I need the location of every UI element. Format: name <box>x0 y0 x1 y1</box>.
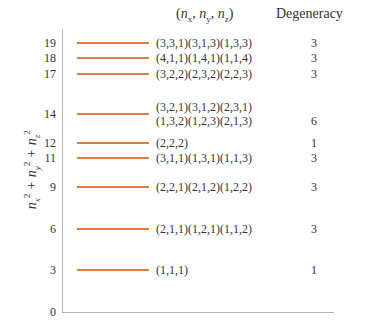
degeneracy-header: Degeneracy <box>276 6 343 22</box>
degeneracy-value: 3 <box>308 67 320 81</box>
level-line <box>77 42 149 44</box>
tick-19: 19 <box>28 36 56 50</box>
tick-3: 3 <box>28 263 56 277</box>
degeneracy-value: 3 <box>308 51 320 65</box>
degeneracy-value: 3 <box>308 151 320 165</box>
degeneracy-value: 3 <box>308 222 320 236</box>
tick-9: 9 <box>28 180 56 194</box>
level-line <box>77 228 149 230</box>
level-configs: (2,2,2) <box>156 136 188 150</box>
x-axis <box>62 312 334 313</box>
level-line <box>77 113 149 115</box>
level-configs: (4,1,1)(1,4,1)(1,1,4) <box>156 51 252 65</box>
tick-6: 6 <box>28 222 56 236</box>
level-line <box>77 73 149 75</box>
level-line <box>77 157 149 159</box>
level-configs: (3,2,1)(3,1,2)(2,3,1) <box>156 100 252 114</box>
tick-17: 17 <box>28 67 56 81</box>
level-line <box>77 57 149 59</box>
level-configs: (3,3,1)(3,1,3)(1,3,3) <box>156 36 252 50</box>
y-axis <box>62 30 63 313</box>
level-line <box>77 142 149 144</box>
degeneracy-value: 3 <box>308 180 320 194</box>
level-line <box>77 186 149 188</box>
tick-18: 18 <box>28 51 56 65</box>
tick-11: 11 <box>28 151 56 165</box>
degeneracy-value: 3 <box>308 36 320 50</box>
level-configs: (3,2,2)(2,3,2)(2,2,3) <box>156 67 252 81</box>
degeneracy-value: 6 <box>308 114 320 128</box>
tick-14: 14 <box>28 107 56 121</box>
level-configs: (2,2,1)(2,1,2)(1,2,2) <box>156 180 252 194</box>
level-configs: (3,1,1)(1,3,1)(1,1,3) <box>156 151 252 165</box>
level-line <box>77 269 149 271</box>
y-axis-label: nx2 + ny2 + nz2 <box>22 120 41 220</box>
level-configs: (1,3,2)(1,2,3)(2,1,3) <box>156 114 252 128</box>
degeneracy-value: 1 <box>308 263 320 277</box>
tick-12: 12 <box>28 136 56 150</box>
level-configs: (2,1,1)(1,2,1)(1,1,2) <box>156 222 252 236</box>
tick-0: 0 <box>28 305 56 319</box>
config-header: (nx, ny, nz) <box>176 6 233 24</box>
level-configs: (1,1,1) <box>156 263 188 277</box>
degeneracy-value: 1 <box>308 136 320 150</box>
